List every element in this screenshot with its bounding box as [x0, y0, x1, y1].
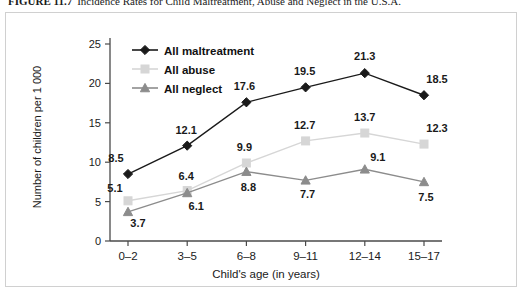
data-point-marker	[360, 165, 369, 173]
data-value-label: 12.3	[426, 122, 447, 134]
x-category-label: 15–17	[408, 250, 440, 262]
legend-marker	[141, 65, 149, 73]
data-value-label: 18.5	[426, 73, 447, 85]
data-value-label: 13.7	[354, 111, 375, 123]
x-axis-ticks: 0–23–56–89–1112–1415–17	[118, 241, 440, 262]
y-tick-label: 5	[95, 196, 101, 208]
data-value-label: 12.7	[294, 119, 315, 131]
data-point-marker	[419, 91, 428, 100]
figure-title: Incidence Rates for Child Maltreatment, …	[77, 0, 401, 7]
data-value-label: 6.1	[189, 200, 204, 212]
y-axis-title: Number of children per 1 000	[31, 42, 43, 232]
legend-item-all-neglect: All neglect	[132, 83, 222, 95]
data-point-marker	[124, 197, 132, 205]
y-tick-label: 15	[89, 117, 101, 129]
x-category-label: 3–5	[178, 250, 197, 262]
data-value-label: 6.4	[179, 170, 195, 182]
data-value-label: 17.6	[234, 80, 255, 92]
data-point-marker	[360, 69, 369, 78]
data-point-marker	[123, 169, 132, 178]
legend-label: All neglect	[164, 83, 222, 95]
data-value-label: 19.5	[294, 65, 315, 77]
y-tick-label: 25	[89, 38, 101, 50]
data-value-label: 3.7	[130, 217, 145, 229]
y-tick-label: 10	[89, 156, 101, 168]
data-value-label: 5.1	[107, 182, 122, 194]
legend-item-all-maltreatment: All maltreatment	[132, 45, 254, 57]
data-point-marker	[242, 167, 251, 175]
y-axis-ticks: 0510152025	[89, 38, 110, 247]
legend-label: All maltreatment	[164, 45, 254, 57]
x-axis-title: Child's age (in years)	[86, 268, 446, 280]
data-point-marker	[420, 140, 428, 148]
plot-area: 0510152025 0–23–56–89–1112–1415–17 5.16.…	[6, 13, 518, 288]
line-chart: Number of children per 1 000 Child's age…	[6, 13, 518, 288]
y-tick-label: 20	[89, 77, 101, 89]
data-value-label: 9.9	[237, 141, 252, 153]
data-point-marker	[242, 159, 250, 167]
axes-group	[110, 38, 442, 241]
legend-label: All abuse	[164, 64, 215, 76]
series-all-neglect	[123, 165, 428, 216]
data-value-label: 12.1	[175, 124, 196, 136]
series-all-abuse	[124, 129, 428, 205]
data-value-label: 7.5	[418, 191, 433, 203]
data-value-label: 9.1	[370, 151, 385, 163]
data-value-label: 7.7	[300, 188, 315, 200]
x-category-label: 0–2	[118, 250, 137, 262]
figure-caption: FIGURE 11.7Incidence Rates for Child Mal…	[8, 0, 518, 9]
figure-number: FIGURE 11.7	[8, 0, 72, 7]
y-tick-label: 0	[95, 235, 101, 247]
legend-item-all-abuse: All abuse	[132, 64, 215, 76]
legend-marker	[140, 45, 149, 54]
data-value-label: 8.8	[241, 181, 256, 193]
data-value-label: 8.5	[108, 152, 123, 164]
data-point-marker	[361, 129, 369, 137]
data-point-marker	[301, 83, 310, 92]
chart-panel: Number of children per 1 000 Child's age…	[5, 12, 517, 287]
x-category-label: 6–8	[237, 250, 256, 262]
x-category-label: 12–14	[349, 250, 382, 262]
x-category-label: 9–11	[293, 250, 318, 262]
data-point-marker	[302, 137, 310, 145]
data-value-label: 21.3	[354, 50, 375, 62]
